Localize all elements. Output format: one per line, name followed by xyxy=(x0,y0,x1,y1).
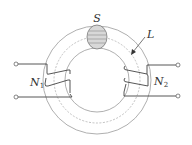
label-n2: N2 xyxy=(153,75,168,89)
cross-section-ellipse xyxy=(87,25,107,49)
l-pointer-line xyxy=(133,37,145,52)
label-n1: N1 xyxy=(29,76,44,90)
inner-ring xyxy=(65,48,129,112)
terminal-icon xyxy=(176,63,180,67)
arrow-icon xyxy=(131,49,136,55)
cross-section xyxy=(87,25,107,49)
terminal-icon xyxy=(14,95,18,99)
terminal-icon xyxy=(14,62,18,66)
secondary-winding xyxy=(124,63,180,98)
label-l: L xyxy=(146,28,154,41)
label-s: S xyxy=(93,12,101,25)
toroid-diagram: S L N1 N2 xyxy=(0,0,192,145)
terminal-icon xyxy=(176,94,180,98)
